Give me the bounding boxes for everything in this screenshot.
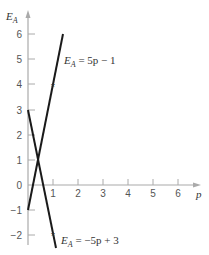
y-axis-arrow-icon <box>26 10 31 18</box>
y-tick-3: 3 <box>16 105 22 116</box>
y-tick-neg1: −1 <box>11 205 23 216</box>
x-axis-label: p <box>195 188 202 200</box>
equation-label-line1: EA = 5p − 1 <box>63 54 116 69</box>
x-tick-5: 5 <box>150 188 156 199</box>
y-tick-4: 4 <box>16 79 22 90</box>
x-tick-6: 6 <box>175 188 181 199</box>
x-tick-2: 2 <box>75 188 81 199</box>
x-tick-4: 4 <box>125 188 131 199</box>
y-tick-neg2: −2 <box>11 230 23 241</box>
y-axis-label: EA <box>5 10 18 25</box>
line-5p-minus-1 <box>28 34 63 210</box>
y-tick-6: 6 <box>16 29 22 40</box>
marker-star-icon: * <box>51 231 55 242</box>
y-tick-2: 2 <box>16 130 22 141</box>
x-axis-arrow-icon <box>193 183 201 188</box>
marker-star-icon: * <box>51 82 55 93</box>
y-tick-labels: 6 5 4 3 2 1 0 −1 −2 <box>11 29 23 241</box>
x-ticks <box>53 179 178 185</box>
y-tick-0: 0 <box>16 180 22 191</box>
chart-canvas: 6 5 4 3 2 1 0 −1 −2 1 2 3 4 5 6 EA p * *… <box>0 0 209 255</box>
line-neg5p-plus-3 <box>28 110 56 248</box>
x-tick-3: 3 <box>100 188 106 199</box>
x-tick-1: 1 <box>50 188 56 199</box>
equation-label-line2: EA = −5p + 3 <box>60 234 119 249</box>
y-tick-5: 5 <box>16 54 22 65</box>
y-tick-1: 1 <box>16 155 22 166</box>
x-tick-labels: 1 2 3 4 5 6 <box>50 188 181 199</box>
